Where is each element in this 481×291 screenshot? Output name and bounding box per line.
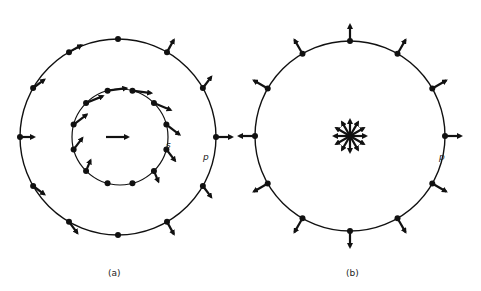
vector-arrow-icon <box>86 96 103 103</box>
vector-arrow-icon <box>203 77 211 88</box>
radial-arrow-icon <box>254 184 268 192</box>
material-point <box>129 180 135 186</box>
radial-arrow-icon <box>295 40 303 54</box>
vector-arrow-icon <box>166 149 175 160</box>
vector-arrow-icon <box>33 186 44 194</box>
vector-arrow-icon <box>108 88 127 90</box>
material-point <box>115 232 121 238</box>
radial-arrow-icon <box>432 81 446 89</box>
material-point <box>115 36 121 42</box>
radial-arrow-icon <box>295 218 303 232</box>
point-label-p-a: p <box>203 152 209 162</box>
radial-arrow-icon <box>254 81 268 89</box>
vector-arrow-icon <box>167 222 174 234</box>
radial-arrow-icon <box>398 40 406 54</box>
caption-a: (a) <box>108 268 121 278</box>
vector-arrow-icon <box>167 40 174 52</box>
vector-arrow-icon <box>33 80 44 88</box>
radial-arrow-icon <box>432 184 446 192</box>
vector-arrow-icon <box>203 186 211 197</box>
caption-b: (b) <box>346 268 359 278</box>
radial-arrow-icon <box>398 218 406 232</box>
point-label-p-b: p <box>439 152 445 162</box>
vector-arrow-icon <box>132 91 151 93</box>
vector-arrow-icon <box>69 45 81 52</box>
material-point <box>105 180 111 186</box>
figure-canvas <box>0 0 481 291</box>
vector-arrow-icon <box>74 138 83 149</box>
panel-a-diagram <box>17 36 232 238</box>
panel-b-diagram <box>239 25 461 247</box>
point-label-s: s <box>166 140 171 150</box>
